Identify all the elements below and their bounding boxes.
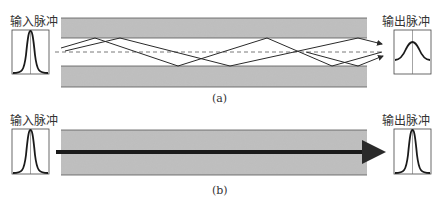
output-pulse-box-a (394, 30, 431, 74)
input-pulse-box-a (12, 30, 49, 74)
input-pulse-label-b: 输入脉冲 (10, 111, 58, 128)
output-pulse-box-b (394, 129, 431, 174)
caption-a: (a) (212, 92, 227, 105)
output-pulse-label-a: 输出脉冲 (382, 12, 430, 29)
input-pulse-box-b (12, 129, 49, 174)
ray-steep-a (61, 38, 382, 66)
panel-a (12, 18, 431, 87)
panel-b (12, 129, 431, 175)
caption-b: (b) (212, 184, 228, 197)
input-pulse-label-a: 输入脉冲 (10, 12, 58, 29)
output-pulse-label-b: 输出脉冲 (382, 111, 430, 128)
